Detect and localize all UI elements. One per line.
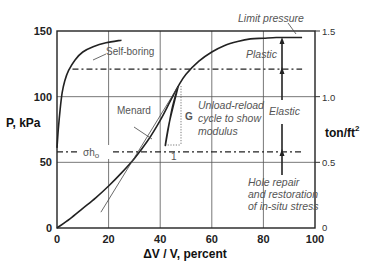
x-axis-ticks: 020406080100 [54, 233, 324, 245]
series-unload-reload-cycle [165, 86, 178, 145]
label-g: G [185, 111, 193, 122]
label-unload-reload-3: modulus [198, 125, 238, 137]
y-tick-label: 150 [34, 25, 52, 37]
x-tick-label: 100 [306, 233, 324, 245]
x-tick-label: 60 [206, 233, 218, 245]
label-elastic: Elastic [269, 105, 301, 117]
x-tick-label: 80 [257, 233, 269, 245]
x-axis-label: ΔV / V, percent [143, 247, 227, 261]
label-one: 1 [171, 151, 177, 162]
x-tick-label: 0 [54, 233, 60, 245]
label-self-boring: Self-boring [106, 46, 154, 57]
y-tick-label: 0 [46, 222, 52, 234]
y-right-tick-label: 0 [322, 222, 327, 233]
y-axis-right-label: ton/ft2 [325, 124, 360, 140]
label-limit-pressure: Limit pressure [238, 12, 304, 24]
pressuremeter-chart: 050100150 00.51.01.5 020406080100 P, kPa… [0, 0, 375, 279]
y-right-tick-label: 1.5 [322, 26, 335, 37]
y-tick-label: 50 [40, 156, 52, 168]
label-hole-repair-1: Hole repair [248, 176, 300, 188]
label-menard: Menard [117, 105, 151, 116]
y-tick-label: 100 [34, 91, 52, 103]
annotations: Self-boring Menard Limit pressure Plasti… [80, 12, 319, 212]
arrowhead-up-icon [280, 149, 285, 156]
label-unload-reload-2: cycle to show [198, 112, 262, 124]
reference-lines [57, 69, 302, 152]
y-right-tick-label: 1.0 [322, 92, 335, 103]
x-tick-label: 20 [102, 233, 114, 245]
label-hole-repair-3: of in-situ stress [248, 200, 319, 212]
label-plastic: Plastic [246, 48, 278, 60]
y-right-tick-label: 0.5 [322, 157, 335, 168]
label-hole-repair-2: and restoration [248, 188, 318, 200]
arrowhead-up-icon [280, 67, 285, 74]
y-axis-right-unit: ton/ft [325, 126, 355, 140]
y-axis-right-sup: 2 [355, 124, 360, 133]
y-axis-label: P, kPa [6, 116, 41, 130]
label-unload-reload-1: Unload-reload [198, 99, 265, 111]
x-tick-label: 40 [154, 233, 166, 245]
